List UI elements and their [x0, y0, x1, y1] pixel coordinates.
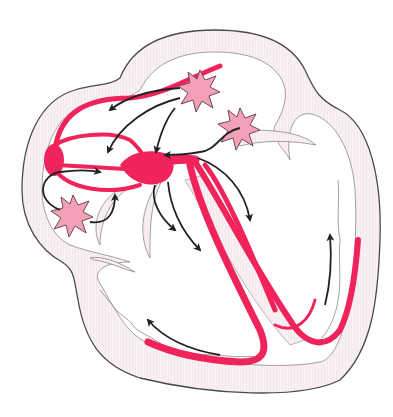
- conduction-diagram: [0, 0, 393, 417]
